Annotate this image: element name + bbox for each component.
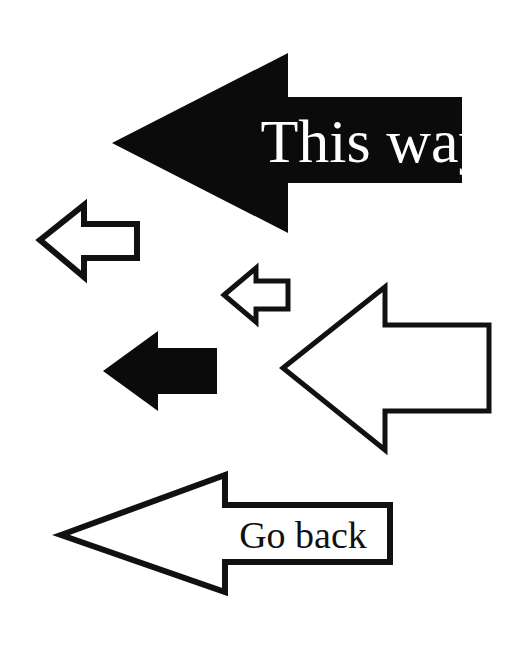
tiny-outlined-arrow-shape[interactable] bbox=[224, 268, 288, 322]
small-outline-arrow-group[interactable] bbox=[40, 205, 137, 277]
medium-black-arrow-shape[interactable] bbox=[103, 331, 217, 411]
tiny-outline-arrow-group[interactable] bbox=[224, 268, 288, 322]
arrow-illustration-canvas: This way Go back bbox=[0, 0, 509, 646]
large-outlined-arrow-shape[interactable] bbox=[283, 287, 489, 450]
medium-black-arrow-group[interactable] bbox=[103, 331, 217, 411]
this-way-arrow-group[interactable]: This way bbox=[112, 53, 490, 233]
large-outline-arrow-group[interactable] bbox=[283, 287, 489, 450]
go-back-arrow-label: Go back bbox=[239, 514, 367, 556]
small-outlined-arrow-shape[interactable] bbox=[40, 205, 137, 277]
this-way-arrow-label: This way bbox=[260, 107, 489, 175]
go-back-arrow-group[interactable]: Go back bbox=[61, 475, 390, 592]
arrows-svg-stage: This way Go back bbox=[0, 0, 509, 646]
